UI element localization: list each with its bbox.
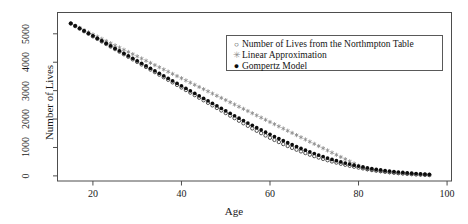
legend-item: ○Number of Lives from the Northmpton Tab… (231, 40, 414, 50)
x-tick-label: 100 (440, 189, 455, 199)
x-axis-title: Age (225, 206, 243, 217)
chart-legend: ○Number of Lives from the Northmpton Tab… (226, 35, 443, 71)
legend-item: ✳Linear Approximation (231, 51, 327, 61)
x-axis-ticks (93, 181, 447, 186)
x-tick-label: 60 (265, 189, 275, 199)
x-tick-label: 40 (176, 189, 186, 199)
legend-item: ●Gompertz Model (231, 62, 307, 72)
chart-figure: 20406080100 010002000300040005000 Age Nu… (0, 0, 468, 224)
plot-canvas (0, 0, 468, 224)
legend-item-label: Gompertz Model (242, 62, 307, 72)
x-tick-label: 80 (354, 189, 364, 199)
legend-item-label: Linear Approximation (242, 51, 327, 61)
y-tick-label: 5000 (21, 10, 31, 58)
y-axis-title: Number of Lives (44, 65, 55, 140)
legend-marker-icon: ○ (231, 41, 242, 49)
x-tick-label: 20 (88, 189, 98, 199)
legend-marker-icon: ✳ (231, 51, 242, 60)
legend-item-label: Number of Lives from the Northmpton Tabl… (242, 40, 414, 50)
legend-marker-icon: ● (231, 62, 242, 71)
